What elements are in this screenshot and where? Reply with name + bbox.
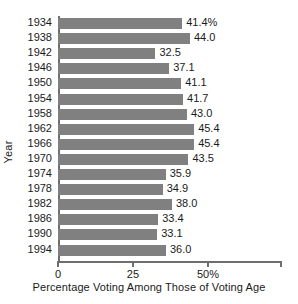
bar-row: 45.4	[58, 139, 282, 150]
x-axis-title: Percentage Voting Among Those of Voting …	[0, 281, 298, 293]
bar-row: 43.5	[58, 154, 282, 165]
bar	[58, 33, 190, 44]
category-label: 1966	[4, 137, 52, 149]
bar-value-label: 45.4	[198, 137, 219, 149]
bar	[58, 184, 163, 195]
bar-value-label: 43.5	[192, 152, 213, 164]
category-label: 1994	[4, 243, 52, 255]
category-label: 1954	[4, 92, 52, 104]
bar-value-label: 41.1	[185, 76, 206, 88]
bar-row: 45.4	[58, 124, 282, 135]
bar-row: 33.1	[58, 229, 282, 240]
bar-row: 36.0	[58, 245, 282, 256]
category-label: 1974	[4, 167, 52, 179]
category-label: 1942	[4, 46, 52, 58]
bar-row: 41.4%	[58, 18, 282, 29]
bar-row: 35.9	[58, 169, 282, 180]
bar-value-label: 35.9	[170, 167, 191, 179]
bar	[58, 63, 169, 74]
bar	[58, 245, 166, 256]
bar	[58, 78, 181, 89]
bar-row: 38.0	[58, 199, 282, 210]
bar-row: 41.7	[58, 94, 282, 105]
bar-row: 32.5	[58, 48, 282, 59]
category-label: 1938	[4, 31, 52, 43]
x-tick-mark	[207, 261, 209, 267]
x-tick-mark	[132, 261, 134, 267]
x-axis-end-tick	[280, 261, 282, 267]
bar	[58, 124, 194, 135]
bar-row: 34.9	[58, 184, 282, 195]
bar	[58, 199, 172, 210]
bar	[58, 48, 155, 59]
category-label: 1982	[4, 197, 52, 209]
bar-row: 33.4	[58, 214, 282, 225]
x-tick-mark	[57, 261, 59, 267]
bar-value-label: 45.4	[198, 122, 219, 134]
bar	[58, 229, 157, 240]
bar-value-label: 41.7	[187, 92, 208, 104]
bar-chart: Year 02550% 41.4%44.032.537.141.141.743.…	[0, 0, 298, 304]
bar-value-label: 34.9	[167, 182, 188, 194]
category-label: 1986	[4, 212, 52, 224]
category-label: 1934	[4, 16, 52, 28]
bar	[58, 214, 158, 225]
bar-value-label: 41.4%	[186, 16, 217, 28]
bar-value-label: 33.1	[161, 227, 182, 239]
category-label: 1962	[4, 122, 52, 134]
bar	[58, 94, 183, 105]
bar-row: 37.1	[58, 63, 282, 74]
x-tick-label: 25	[127, 268, 139, 280]
bar	[58, 18, 182, 29]
bar	[58, 139, 194, 150]
bar-value-label: 36.0	[170, 243, 191, 255]
category-label: 1958	[4, 107, 52, 119]
bar-value-label: 32.5	[159, 46, 180, 58]
category-label: 1946	[4, 61, 52, 73]
bar-row: 41.1	[58, 78, 282, 89]
bar-value-label: 38.0	[176, 197, 197, 209]
category-label: 1970	[4, 152, 52, 164]
bar-value-label: 37.1	[173, 61, 194, 73]
bar	[58, 154, 188, 165]
bar-row: 44.0	[58, 33, 282, 44]
x-tick-label: 0	[55, 268, 61, 280]
bar-row: 43.0	[58, 109, 282, 120]
category-label: 1990	[4, 227, 52, 239]
x-axis-line	[58, 261, 282, 263]
bar	[58, 169, 166, 180]
category-label: 1950	[4, 76, 52, 88]
bar	[58, 109, 187, 120]
category-label: 1978	[4, 182, 52, 194]
bar-value-label: 44.0	[194, 31, 215, 43]
bar-value-label: 43.0	[191, 107, 212, 119]
x-tick-label: 50%	[197, 268, 219, 280]
bar-value-label: 33.4	[162, 212, 183, 224]
